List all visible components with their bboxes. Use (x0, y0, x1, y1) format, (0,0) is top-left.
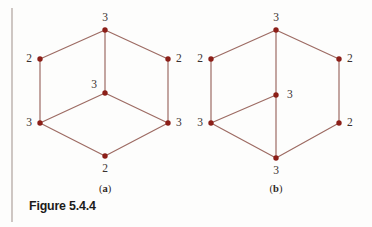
vertex-degree-label-b-center: 3 (287, 89, 293, 101)
vertex-degree-label-a-top: 3 (85, 12, 125, 24)
graph-vertex-a-bottom (102, 153, 107, 158)
graph-edges-layer (40, 30, 339, 158)
graph-vertex-b-lower-right (336, 120, 341, 125)
graph-vertex-a-center (102, 90, 107, 95)
vertex-degree-label-b-top: 3 (256, 12, 296, 24)
graph-vertex-b-upper-right (336, 56, 341, 61)
graph-vertex-b-center (273, 92, 278, 97)
vertex-degree-label-b-bottom: 3 (256, 165, 296, 177)
graph-edge (211, 95, 276, 123)
vertex-degree-label-b-upper-right: 2 (347, 53, 353, 65)
graph-edge (276, 123, 339, 158)
graph-edge (276, 30, 339, 59)
graph-vertex-b-top (273, 27, 278, 32)
figure-caption: Figure 5.4.4 (29, 198, 96, 213)
vertex-degree-label-a-center: 3 (0, 79, 97, 91)
graph-edge (211, 123, 276, 158)
vertex-degree-label-b-lower-right: 2 (347, 117, 353, 129)
graph-vertex-a-top (102, 27, 107, 32)
vertex-degree-label-a-bottom: 2 (85, 163, 125, 175)
subfigure-label-a: (a) (85, 184, 125, 195)
vertex-degree-label-b-lower-left: 3 (0, 117, 203, 129)
subfigure-label-b: (b) (256, 184, 296, 195)
graph-edge (211, 30, 276, 59)
figure-page: 32233323223323 (a) (b) Figure 5.4.4 (0, 0, 372, 227)
graph-vertex-b-lower-left (208, 120, 213, 125)
graph-vertex-b-bottom (273, 155, 278, 160)
figure-graphics (0, 0, 372, 227)
graph-vertex-b-upper-left (208, 56, 213, 61)
vertex-degree-label-b-upper-left: 2 (0, 53, 203, 65)
graph-vertices-layer (37, 27, 341, 160)
